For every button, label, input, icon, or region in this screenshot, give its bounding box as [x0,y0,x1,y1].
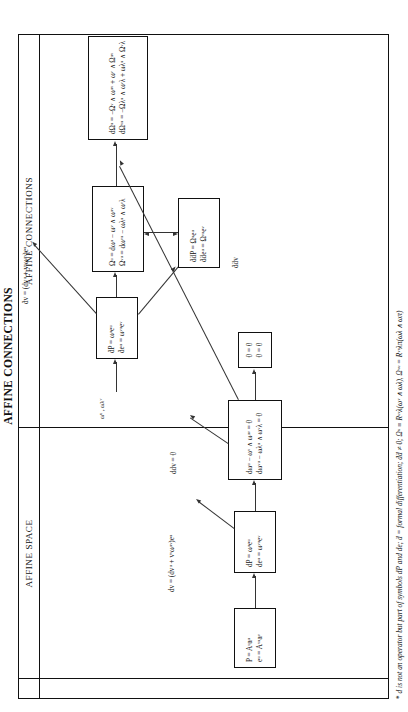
box-zero-identities: 0 = 0 0 = 0 [238,332,272,368]
arrowhead-maurer-to-zero [252,369,256,374]
column-caption-affine-space: AFFINE SPACE [18,428,40,679]
label-ddv-zero: ddv = 0 [170,452,178,474]
column-caption-affine-connections: AFFINE CONNECTIONS [18,34,40,428]
connector-curvature-to-bianchi [116,144,117,186]
box-curvature-forms-line-1: Ωᵘ = dωᵘ − ωᵛ ∧ ωᵘᵛ [108,192,118,266]
arrowhead-up-curvature [144,232,149,236]
box-maurer-cartan-line-2: dωᵛᵘ − ωλᵘ ∧ ωᵛλ = 0 [255,406,265,474]
arrowhead-omega-to-structure [113,359,117,364]
box-point-frame-line-1: P = Aᵘaᵘ [245,614,255,662]
box-second-differential: ḋḋP = Ωᵘeᵘ ḋḋeᵘ = Ωᵛᵘeᵛ [178,198,220,268]
box-structure-space-line-2: deᵘ = ωᵛᵘeᵛ [255,517,265,567]
box-bianchi-identities: dΩᵘ = −Ωᵛ ∧ ωᵘᵛ + ωᵛ ∧ Ωᵘᵛ dΩᵛᵘ = −Ωλᵘ ∧… [88,36,148,140]
box-second-differential-line-1: ḋḋP = Ωᵘeᵘ [189,204,199,262]
footnote-text: d is not an operator but part of symbols… [395,311,404,694]
label-omega-inputs: ωᵘ , ωλᵛ [98,399,105,419]
footnote-marker: * [395,695,404,699]
arrowhead-curvature-to-bianchi [113,141,117,146]
box-zero-identities-line-2: 0 = 0 [255,343,265,358]
box-zero-identities-line-1: 0 = 0 [245,343,255,358]
connector-omega-to-structure [116,362,117,392]
box-bianchi-identities-line-2: dΩᵛᵘ = −Ωλᵘ ∧ ωᵛλ + ωλᵘ ∧ Ωᵛλ [118,42,128,134]
box-point-frame-line-2: eᵘ = Aᵛᵘaᵛ [255,614,265,662]
connector-maurer-to-zero [255,372,256,400]
box-structure-space: dP = ωᵘeᵘ deᵘ = ωᵛᵘeᵛ [234,511,276,573]
rotated-page-canvas: AFFINE CONNECTIONS AFFINE SPACE AFFINE C… [0,0,408,712]
box-curvature-forms-line-2: Ωᵛᵘ = dωᵛᵘ − ωλᵘ ∧ ωᵛλ [118,192,128,266]
connector-structure-to-maurer [255,483,256,511]
footnote: * d is not an operator but part of symbo… [395,19,404,699]
page-viewport: AFFINE CONNECTIONS AFFINE SPACE AFFINE C… [0,0,408,712]
connector-structure-to-curvature [116,275,117,297]
box-structure-connection-line-1: ḋP = ωᵘeᵘ [107,303,117,353]
running-head: AFFINE CONNECTIONS [2,0,14,712]
label-dv-space: dv = (dvᵘ + vᵛωᵘᵛ)eᵘ [168,535,176,592]
box-structure-connection-line-2: ḋeᵘ = ωᵛᵘeᵛ [117,303,127,353]
frame-inner-divider-left [18,678,389,679]
box-maurer-cartan: dωᵘ − ωᵛ ∧ ωᵘᵛ = 0 dωᵛᵘ − ωλᵘ ∧ ωᵛλ = 0 [228,400,282,480]
box-maurer-cartan-line-1: dωᵘ − ωᵛ ∧ ωᵘᵛ = 0 [245,406,255,474]
diagram-frame [18,34,389,699]
label-dv-connection: ḋv = (dvᵘ + vᵛωᵘᵛ)eᵘ [22,247,30,304]
box-point-frame: P = Aᵘaᵘ eᵘ = Aᵛᵘaᵛ [234,608,276,668]
arrowhead-structure-to-curvature [113,272,117,277]
box-structure-space-line-1: dP = ωᵘeᵘ [245,517,255,567]
box-structure-connection: ḋP = ωᵘeᵘ ḋeᵘ = ωᵛᵘeᵛ [96,297,138,359]
arrowhead-down-second-differential [173,232,178,236]
box-second-differential-line-2: ḋḋeᵘ = Ωᵛᵘeᵛ [199,204,209,262]
arrowhead-point-to-structure [252,573,256,578]
box-bianchi-identities-line-1: dΩᵘ = −Ωᵛ ∧ ωᵘᵛ + ωᵛ ∧ Ωᵘᵛ [108,42,118,134]
label-ddv-connection: ḋḋv [232,257,240,268]
connector-point-to-structure [255,576,256,608]
arrowhead-structure-to-maurer [252,480,256,485]
